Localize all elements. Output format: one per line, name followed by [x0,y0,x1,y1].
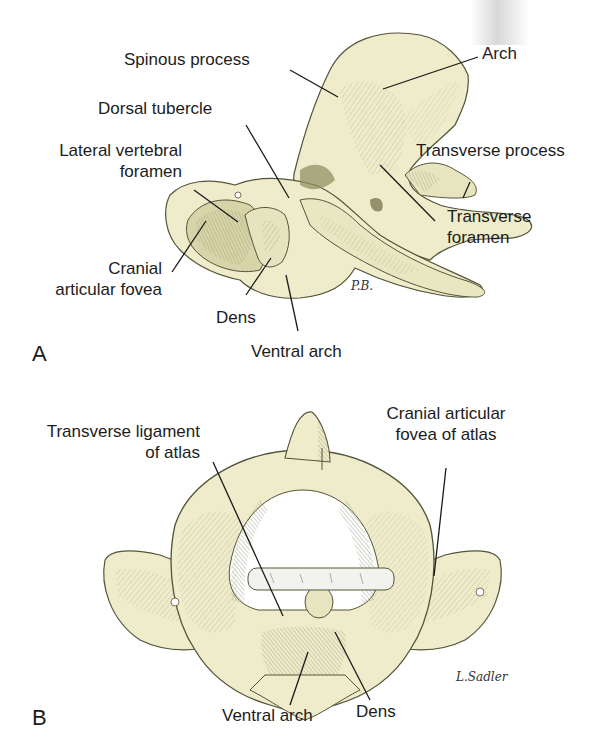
label-dorsal-tubercle: Dorsal tubercle [98,98,212,119]
panel-letter-b: B [32,705,47,731]
label-cranial-articular-fovea-of-atlas: Cranial articular fovea of atlas [362,403,530,445]
label-ventral-arch: Ventral arch [251,341,342,362]
label-arch: Arch [482,43,517,64]
label-ventral-arch: Ventral arch [222,705,313,726]
artist-signature: L.Sadler [456,670,508,684]
label-spinous-process: Spinous process [124,49,250,70]
figure-a-lateral-view: Spinous process Arch Dorsal tubercle Lat… [0,0,607,370]
panel-letter-a: A [32,341,47,367]
label-dens: Dens [216,307,256,328]
label-lateral-vertebral-foramen: Lateral vertebral foramen [30,140,182,182]
label-transverse-foramen: Transverse foramen [447,206,531,248]
label-transverse-process: Transverse process [416,140,565,161]
label-transverse-ligament-of-atlas: Transverse ligament of atlas [0,421,200,463]
label-dens: Dens [356,701,396,722]
label-cranial-articular-fovea: Cranial articular fovea [20,258,162,300]
figure-b-cranial-view: Transverse ligament of atlas Cranial art… [0,370,607,738]
artist-signature: P.B. [351,279,373,293]
